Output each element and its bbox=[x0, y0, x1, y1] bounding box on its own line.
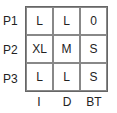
row-label-p1: P1 bbox=[3, 14, 23, 28]
cell-p3-bt: S bbox=[80, 63, 107, 91]
cell-p2-i: XL bbox=[26, 35, 53, 63]
cell-p2-d: M bbox=[53, 35, 80, 63]
cell-p1-d: L bbox=[53, 7, 80, 35]
cell-p3-i: L bbox=[26, 63, 53, 91]
cell-p1-i: L bbox=[26, 7, 53, 35]
col-label-i: I bbox=[25, 95, 53, 109]
cell-p2-bt: S bbox=[80, 35, 107, 63]
col-label-d: D bbox=[53, 95, 81, 109]
row-label-p2: P2 bbox=[3, 43, 23, 57]
cell-p1-bt: 0 bbox=[80, 7, 107, 35]
matrix-grid: L L 0 XL M S L L S bbox=[25, 6, 108, 92]
cell-p3-d: L bbox=[53, 63, 80, 91]
col-label-bt: BT bbox=[80, 95, 108, 109]
row-label-p3: P3 bbox=[3, 72, 23, 86]
